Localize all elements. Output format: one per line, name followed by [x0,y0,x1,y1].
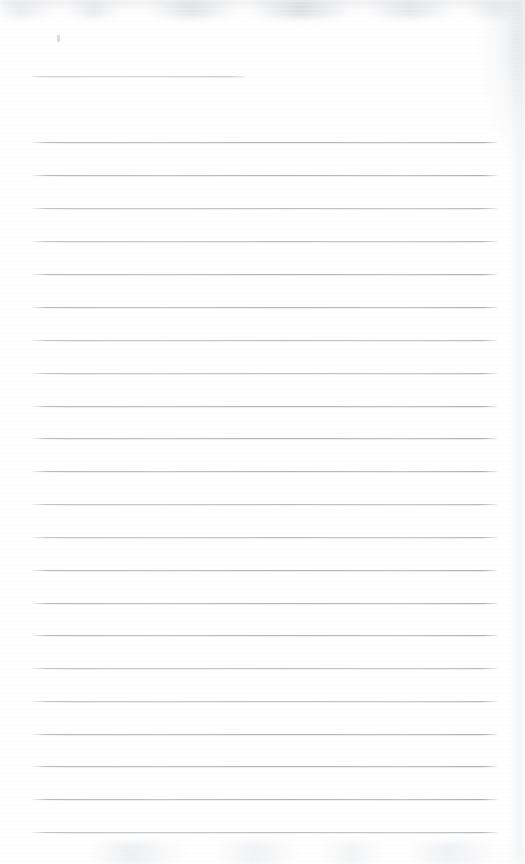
ruled-line [33,373,497,374]
ruled-line [31,76,247,77]
ruled-line [33,175,497,176]
ruled-line [33,603,497,604]
ruled-line [33,504,497,505]
ruled-line [33,832,497,833]
ruled-line [33,734,497,735]
ruled-line [33,406,497,407]
ruled-line [33,438,497,439]
ruled-line [33,766,497,767]
ruled-line [33,142,497,143]
ruled-line [33,570,497,571]
ruled-line [33,208,497,209]
ruled-line [33,307,497,308]
ruled-line [33,635,497,636]
ruled-line [33,701,497,702]
pencil-speck [57,35,60,42]
ruled-lines-group [0,0,525,864]
ruled-line [33,799,497,800]
ruled-line [33,340,497,341]
ruled-line [33,537,497,538]
ruled-line [33,668,497,669]
ruled-line [33,274,497,275]
ruled-line [33,241,497,242]
scanned-page [0,0,525,864]
ruled-line [33,471,497,472]
